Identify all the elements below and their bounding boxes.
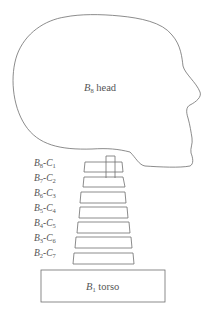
vertebra-label-c3: B6-C3 bbox=[34, 189, 56, 199]
torso-label: B1 torso bbox=[86, 282, 119, 293]
vertebra-label-c4: B5-C4 bbox=[34, 204, 56, 214]
vertebra-c2 bbox=[83, 177, 125, 187]
torso-text: torso bbox=[98, 281, 119, 292]
vertebra-label-c1: B8-C1 bbox=[34, 159, 56, 169]
vertebra-c6 bbox=[75, 237, 132, 248]
diagram-canvas bbox=[0, 0, 210, 318]
vertebra-c5 bbox=[77, 222, 130, 233]
torso-body-index: 1 bbox=[92, 286, 95, 293]
c1-skull-connector bbox=[106, 156, 115, 178]
head-text: head bbox=[96, 82, 116, 93]
head-body-index: 8 bbox=[90, 87, 93, 94]
vertebra-c3 bbox=[80, 192, 126, 203]
vertebra-label-c2: B7-C2 bbox=[34, 174, 56, 184]
head-label: B8 head bbox=[84, 83, 116, 94]
vertebra-label-c6: B3-C6 bbox=[34, 234, 56, 244]
vertebra-label-c7: B2-C7 bbox=[34, 249, 56, 259]
vertebra-label-c5: B4-C5 bbox=[34, 219, 56, 229]
vertebra-c7 bbox=[73, 253, 134, 264]
vertebra-c4 bbox=[79, 207, 128, 218]
vertebra-c1 bbox=[84, 162, 123, 172]
